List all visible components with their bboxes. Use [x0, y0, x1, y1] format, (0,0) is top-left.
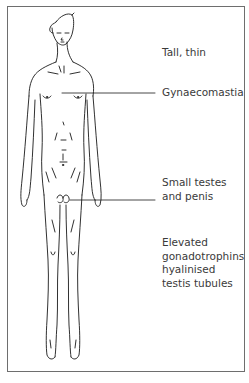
genitals-drawing [57, 195, 69, 203]
label-small-testes-line2: and penis [162, 190, 227, 204]
label-small-testes-line1: Small testes [162, 176, 227, 190]
label-elevated-line4: testis tubules [162, 277, 244, 291]
label-gynaecomastia-text: Gynaecomastia [162, 86, 244, 100]
label-elevated-line1: Elevated [162, 236, 244, 250]
label-tall-thin: Tall, thin [162, 46, 206, 60]
head-drawing [50, 13, 74, 45]
label-elevated-line3: hyalinised [162, 263, 244, 277]
label-elevated-gonadotrophins: Elevated gonadotrophins hyalinised testi… [162, 236, 244, 290]
legs-drawing [44, 195, 82, 359]
label-small-testes: Small testes and penis [162, 176, 227, 203]
label-tall-thin-text: Tall, thin [162, 46, 206, 60]
torso-drawing [29, 62, 94, 195]
label-gynaecomastia: Gynaecomastia [162, 86, 244, 100]
label-elevated-line2: gonadotrophins [162, 250, 244, 264]
arms-drawing [21, 96, 101, 206]
